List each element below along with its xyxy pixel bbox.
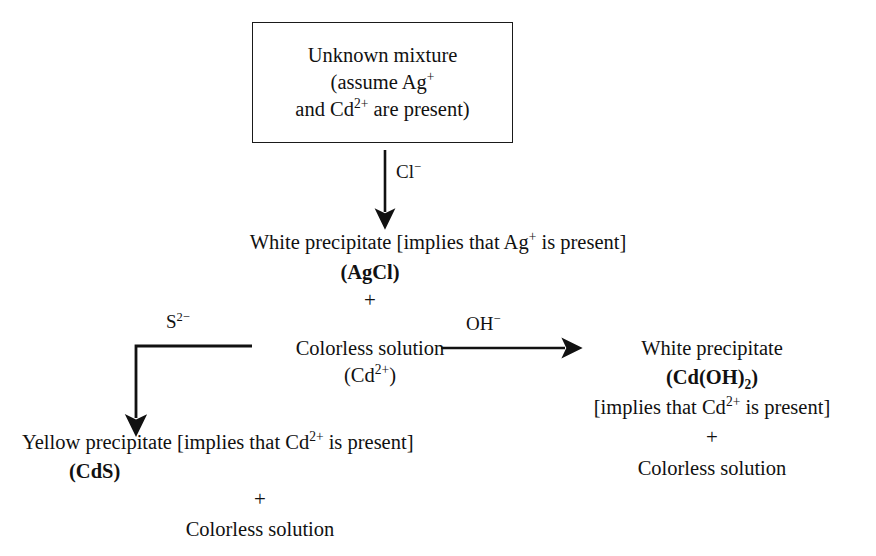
silver-ion-charge: + [427, 69, 435, 84]
reagent-hydroxide-text: OH [466, 313, 493, 334]
start-box-line-3-suffix: are present) [368, 98, 469, 120]
branch-sulfide-line: Yellow precipitate [implies that Cd2+ is… [22, 429, 482, 456]
branch-hydroxide-final: Colorless solution [566, 455, 858, 482]
branch-hydroxide-line-1: White precipitate [572, 335, 852, 362]
start-box-line-3-text: and Cd [295, 98, 354, 120]
branch-hydroxide-formula-prefix: (Cd(OH) [666, 366, 745, 388]
reagent-chloride-text: Cl [396, 161, 414, 182]
step-solution-ion-prefix: (Cd [344, 364, 375, 386]
reagent-sulfide-charge: 2− [177, 310, 190, 324]
reagent-hydroxide-charge: − [493, 312, 500, 326]
step-agcl-line: White precipitate [implies that Ag+ is p… [0, 229, 876, 256]
branch-sulfide-charge: 2+ [309, 429, 323, 444]
branch-hydroxide-text: [implies that Cd [594, 396, 726, 418]
branch-hydroxide-plus: + [566, 425, 858, 450]
branch-sulfide-plus: + [160, 487, 360, 512]
branch-sulfide-suffix: is present] [324, 431, 414, 453]
start-box-text: Unknown mixture (assume Ag+ and Cd2+ are… [253, 41, 512, 123]
branch-hydroxide-charge: 2+ [726, 394, 740, 409]
reagent-label-sulfide: S2− [166, 311, 190, 333]
start-box-line-1: Unknown mixture [253, 41, 512, 68]
step-agcl-plus: + [0, 288, 740, 313]
flowchart-canvas: Unknown mixture (assume Ag+ and Cd2+ are… [0, 0, 876, 556]
step-agcl-formula: (AgCl) [0, 259, 740, 286]
reagent-label-hydroxide: OH− [466, 313, 501, 335]
branch-sulfide-text: Yellow precipitate [implies that Cd [22, 431, 309, 453]
start-box-line-2-text: (assume Ag [331, 71, 427, 93]
branch-hydroxide-line-3: [implies that Cd2+ is present] [566, 394, 858, 421]
branch-sulfide-formula: (CdS) [22, 458, 269, 485]
branch-hydroxide-formula-suffix: ) [751, 366, 758, 388]
branch-sulfide-final: Colorless solution [160, 516, 360, 543]
start-box-line-3: and Cd2+ are present) [253, 96, 512, 123]
step-agcl-suffix: is present] [536, 231, 626, 253]
step-agcl-text: White precipitate [implies that Ag [250, 231, 529, 253]
start-box-line-2: (assume Ag+ [253, 69, 512, 96]
reagent-sulfide-text: S [166, 311, 177, 332]
reagent-label-chloride: Cl− [396, 161, 421, 183]
start-box: Unknown mixture (assume Ag+ and Cd2+ are… [252, 22, 513, 143]
reagent-chloride-charge: − [414, 160, 421, 174]
cadmium-ion-charge: 2+ [354, 96, 368, 111]
branch-hydroxide-suffix: is present] [740, 396, 830, 418]
step-solution-ion-suffix: ) [389, 364, 396, 386]
branch-hydroxide-formula: (Cd(OH)2) [572, 364, 852, 391]
step-solution-ion-charge: 2+ [375, 362, 389, 377]
